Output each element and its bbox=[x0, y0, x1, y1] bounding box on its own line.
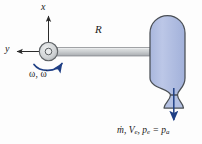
exhaust-conditions-label: ṁ, Ve, pe = pa bbox=[117, 126, 170, 136]
x-axis-label: x bbox=[41, 2, 45, 12]
mass-flow-symbol: ṁ bbox=[117, 125, 124, 135]
equals-sign: = bbox=[153, 125, 159, 135]
comma-1: , bbox=[124, 125, 126, 135]
exit-pressure-subscript: e bbox=[147, 128, 150, 136]
arm-rod bbox=[51, 48, 150, 57]
rocket-arm-figure: x y R ω, ω̇ ṁ, Ve, pe = pa bbox=[0, 0, 202, 144]
angular-velocity-label: ω, ω̇ bbox=[29, 70, 47, 80]
y-axis-label: y bbox=[5, 44, 9, 54]
propellant-tank bbox=[150, 16, 185, 96]
comma-2: , bbox=[138, 125, 140, 135]
arm-radius-label: R bbox=[95, 24, 102, 35]
ambient-pressure-subscript: a bbox=[166, 128, 170, 136]
pivot-hub bbox=[39, 42, 57, 60]
